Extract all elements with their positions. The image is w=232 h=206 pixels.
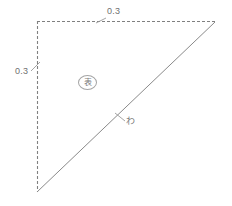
- pattern-diagram-canvas: 0.3 0.3 表 わ: [0, 0, 232, 206]
- face-side-marker-label: 表: [84, 79, 92, 87]
- diagonal-fold-edge: [37, 22, 215, 192]
- top-dimension-label: 0.3: [107, 7, 120, 16]
- top-dimension-leader-line: [96, 18, 106, 23]
- fold-line-label: わ: [126, 117, 135, 126]
- face-side-marker: 表: [78, 75, 97, 90]
- left-dimension-label: 0.3: [15, 67, 28, 76]
- left-dimension-leader-line: [31, 62, 40, 71]
- fold-label-leader-line: [115, 113, 125, 121]
- pattern-diagram-svg: [0, 0, 232, 206]
